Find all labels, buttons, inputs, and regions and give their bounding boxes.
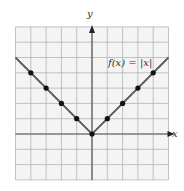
y-axis-label: y <box>86 8 93 19</box>
data-point <box>120 101 125 106</box>
data-point <box>105 116 110 121</box>
function-label: f(x) = |x| <box>107 57 152 69</box>
data-point <box>74 116 79 121</box>
data-point <box>59 101 64 106</box>
data-point <box>151 70 156 75</box>
absolute-value-graph: f(x) = |x| x y <box>0 0 184 191</box>
x-axis-label: x <box>172 128 178 139</box>
data-point <box>28 70 33 75</box>
data-point <box>44 86 49 91</box>
data-point <box>89 131 94 136</box>
data-point <box>135 86 140 91</box>
